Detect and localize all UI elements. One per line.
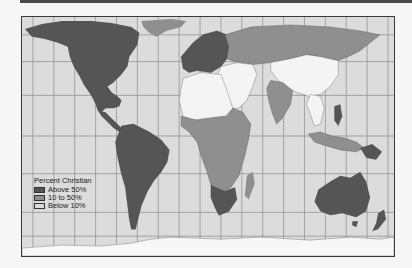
indonesia	[308, 132, 364, 152]
antarctica	[22, 237, 394, 256]
north-america	[25, 21, 139, 112]
world-map	[21, 16, 395, 257]
legend-swatch-medium	[34, 195, 45, 201]
legend-swatch-light	[34, 203, 45, 209]
madagascar	[245, 172, 255, 200]
top-border-bar	[20, 0, 412, 3]
southeast-asia	[306, 94, 324, 126]
legend-item-below-10: Below 10%	[34, 202, 92, 210]
legend-title: Percent Christian	[34, 177, 92, 185]
papua-new-guinea	[360, 144, 382, 160]
map-canvas	[22, 17, 394, 256]
central-africa	[181, 108, 251, 191]
australia	[314, 172, 370, 218]
tasmania	[352, 221, 358, 227]
central-america	[98, 110, 122, 132]
philippines	[334, 104, 342, 126]
legend-swatch-dark	[34, 187, 45, 193]
map-legend: Percent Christian Above 50% 10 to 50% Be…	[34, 177, 92, 210]
legend-label: Below 10%	[48, 202, 86, 210]
south-america	[115, 124, 169, 229]
